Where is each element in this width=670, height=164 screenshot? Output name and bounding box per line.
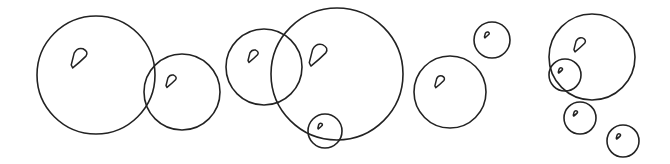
bubble-icon xyxy=(414,56,486,128)
bubble-icon xyxy=(564,102,596,134)
highlight-icon xyxy=(616,134,620,139)
bubble-icon xyxy=(308,114,342,148)
highlight-icon xyxy=(574,38,585,52)
bubble-icon xyxy=(549,14,635,100)
bubble-icon xyxy=(271,8,403,140)
bubbles-illustration xyxy=(0,0,670,164)
bubble-icon xyxy=(37,16,155,134)
highlight-icon xyxy=(484,32,489,38)
bubble-icon xyxy=(226,29,302,105)
bubble-icon xyxy=(144,54,220,130)
bubble-icon xyxy=(607,125,639,157)
highlight-icon xyxy=(318,123,323,129)
highlight-icon xyxy=(71,48,87,67)
highlight-icon xyxy=(435,76,445,88)
highlight-icon xyxy=(573,111,577,116)
bubble-icon xyxy=(474,22,510,58)
highlight-icon xyxy=(248,50,258,63)
highlight-icon xyxy=(309,44,327,66)
highlight-icon xyxy=(558,68,562,73)
highlight-icon xyxy=(166,75,176,88)
